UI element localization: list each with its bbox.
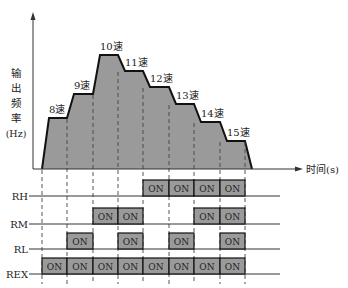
x-axis-label: 时间(s) bbox=[306, 163, 339, 175]
on-label: ON bbox=[225, 212, 240, 222]
signal-name: RM bbox=[10, 219, 28, 230]
signal-name: RL bbox=[14, 244, 29, 255]
on-label: ON bbox=[174, 184, 189, 194]
speed-label: 11速 bbox=[125, 57, 148, 68]
on-label: ON bbox=[199, 184, 214, 194]
on-label: ON bbox=[47, 262, 62, 272]
y-axis-label-char: 出 bbox=[11, 82, 21, 94]
y-axis-label-char: 频 bbox=[11, 97, 22, 109]
on-label: ON bbox=[123, 262, 138, 272]
on-label: ON bbox=[174, 237, 189, 247]
on-label: ON bbox=[225, 237, 240, 247]
speed-label: 9速 bbox=[74, 80, 90, 91]
on-label: ON bbox=[199, 262, 214, 272]
y-axis-label: 输出频率(Hz) bbox=[6, 67, 27, 139]
signal-row-rl: RLONONONON bbox=[14, 233, 280, 255]
y-axis-label-char: (Hz) bbox=[6, 128, 27, 139]
on-label: ON bbox=[72, 237, 87, 247]
speed-label: 10速 bbox=[100, 41, 123, 52]
on-label: ON bbox=[199, 212, 214, 222]
y-axis-arrow-icon bbox=[31, 12, 36, 20]
speed-label: 15速 bbox=[227, 127, 250, 138]
on-label: ON bbox=[225, 184, 240, 194]
on-label: ON bbox=[123, 237, 138, 247]
signal-name: REX bbox=[6, 269, 29, 280]
y-axis-label-char: 率 bbox=[11, 112, 21, 124]
on-label: ON bbox=[225, 262, 240, 272]
on-label: ON bbox=[123, 212, 138, 222]
x-axis-arrow-icon bbox=[295, 167, 303, 172]
on-label: ON bbox=[98, 262, 113, 272]
signal-row-rex: REXONONONONONONONON bbox=[6, 258, 280, 280]
on-label: ON bbox=[148, 184, 163, 194]
signal-row-rm: RMONONONON bbox=[10, 208, 280, 230]
on-label: ON bbox=[72, 262, 87, 272]
speed-label: 13速 bbox=[176, 90, 199, 101]
signal-row-rh: RHONONONON bbox=[12, 180, 280, 202]
on-label: ON bbox=[98, 212, 113, 222]
speed-timing-diagram: 输出频率(Hz) 时间(s) 8速9速10速11速12速13速14速15速 RH… bbox=[0, 0, 348, 288]
speed-label: 12速 bbox=[150, 73, 173, 84]
speed-label: 14速 bbox=[201, 108, 224, 119]
y-axis-label-char: 输 bbox=[11, 67, 22, 79]
speed-label: 8速 bbox=[49, 104, 65, 115]
on-label: ON bbox=[174, 262, 189, 272]
signal-name: RH bbox=[12, 191, 29, 202]
on-label: ON bbox=[148, 262, 163, 272]
